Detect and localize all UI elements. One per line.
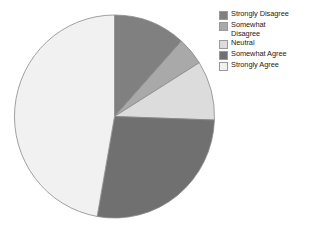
pie-chart-figure: Strongly Disagree Somewhat Disagree Neut… [0, 0, 317, 231]
pie-slice [97, 117, 214, 219]
legend-swatch-somewhat-disagree [219, 22, 228, 31]
pie-chart-svg [13, 14, 216, 219]
chart-legend: Strongly Disagree Somewhat Disagree Neut… [219, 10, 315, 72]
legend-label-neutral: Neutral [231, 39, 254, 48]
legend-item-neutral: Neutral [219, 39, 315, 49]
legend-item-strongly-disagree: Strongly Disagree [219, 10, 315, 20]
legend-swatch-strongly-agree [219, 62, 228, 71]
pie-slice-group [14, 15, 214, 218]
legend-label-somewhat-agree: Somewhat Agree [231, 50, 287, 59]
legend-label-strongly-disagree: Strongly Disagree [231, 10, 289, 19]
pie-slice [14, 15, 114, 216]
legend-item-strongly-agree: Strongly Agree [219, 61, 315, 71]
legend-label-strongly-agree: Strongly Agree [231, 61, 279, 70]
legend-label-somewhat-disagree: Somewhat Disagree [231, 21, 266, 38]
legend-swatch-strongly-disagree [219, 11, 228, 20]
legend-swatch-somewhat-agree [219, 51, 228, 60]
legend-item-somewhat-agree: Somewhat Agree [219, 50, 315, 60]
pie-chart-plot-area [13, 14, 216, 219]
legend-item-somewhat-disagree: Somewhat Disagree [219, 21, 315, 38]
legend-swatch-neutral [219, 40, 228, 49]
